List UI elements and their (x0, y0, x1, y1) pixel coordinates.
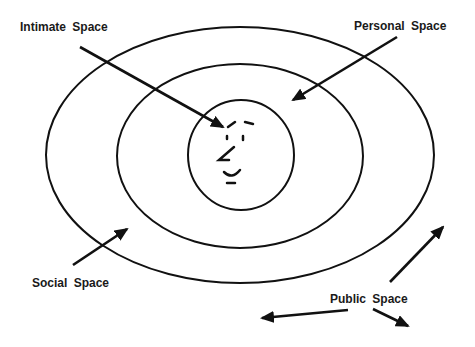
proxemics-diagram: Intimate Space Personal Space Social Spa… (0, 0, 475, 347)
face-sketch-icon (219, 122, 253, 183)
intimate-space-arrow (80, 47, 223, 127)
intimate-space-label: Intimate Space (20, 20, 108, 34)
public-space-label: Public Space (330, 292, 408, 306)
personal-zone-ellipse (117, 64, 363, 248)
public-space-arrow-up (390, 227, 443, 282)
social-space-label: Social Space (32, 276, 109, 290)
public-space-arrow-left (262, 310, 348, 318)
personal-space-label: Personal Space (354, 19, 446, 33)
public-space-arrow-down (373, 309, 408, 326)
social-space-arrow (73, 229, 127, 265)
